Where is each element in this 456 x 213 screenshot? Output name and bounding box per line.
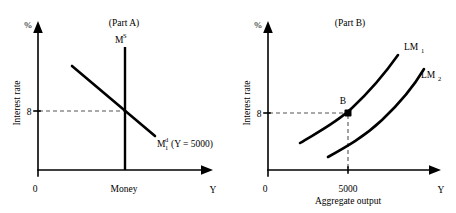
part-b-x-axis-label: Aggregate output <box>315 196 382 206</box>
part-b-y-tick-label: 8 <box>257 109 262 119</box>
part-b-y-unit: % <box>254 20 262 30</box>
part-b-y-axis-label: Interest rate <box>242 80 252 125</box>
part-b-y-axis-arrow-icon <box>263 21 273 33</box>
money-demand-curve <box>72 66 155 136</box>
money-supply-label: M S <box>115 32 127 45</box>
part-b-x-axis-arrow-icon <box>429 165 441 175</box>
part-a-y-axis-arrow-icon <box>33 21 43 33</box>
part-b-panel: (Part B) % Interest rate 8 0 5000 Aggreg… <box>242 18 445 206</box>
part-a-y-unit: % <box>24 20 32 30</box>
part-b-x-unit: Y <box>438 185 445 195</box>
money-demand-label-subscript: 1 <box>165 144 168 151</box>
part-b-title: (Part B) <box>335 18 365 29</box>
part-b-x-axis <box>268 165 441 175</box>
money-demand-label-suffix: (Y = 5000) <box>171 139 213 150</box>
money-supply-label-superscript: S <box>123 32 127 39</box>
lm1-label-subscript: 1 <box>421 47 424 54</box>
lm1-label-base: LM <box>404 42 419 52</box>
lm2-label-base: LM <box>421 70 436 80</box>
lm1-label: LM 1 <box>404 42 424 54</box>
part-a-origin-label: 0 <box>33 184 38 194</box>
part-a-y-tick-label: 8 <box>27 107 32 117</box>
lm2-label-subscript: 2 <box>438 75 441 82</box>
figure-canvas: (Part A) % Interest rate 8 0 Money Y M S… <box>0 0 456 213</box>
part-a-y-axis <box>33 21 43 176</box>
part-a-panel: (Part A) % Interest rate 8 0 Money Y M S… <box>12 18 217 195</box>
part-b-origin-label: 0 <box>263 184 268 194</box>
part-a-x-axis-label: Money <box>111 184 138 194</box>
money-demand-label: M 1 d (Y = 5000) <box>157 136 213 151</box>
economics-figure: (Part A) % Interest rate 8 0 Money Y M S… <box>0 0 456 213</box>
point-b-marker <box>345 110 352 117</box>
part-a-y-axis-label: Interest rate <box>12 80 22 125</box>
lm2-label: LM 2 <box>421 70 441 82</box>
part-a-x-unit: Y <box>210 185 217 195</box>
lm1-curve <box>300 55 398 143</box>
money-demand-label-superscript: d <box>165 136 169 143</box>
part-a-x-axis-arrow-icon <box>201 165 213 175</box>
part-a-title: (Part A) <box>109 18 139 29</box>
part-b-x-tick-label: 5000 <box>339 184 358 194</box>
part-b-y-axis <box>263 21 273 176</box>
point-b-label: B <box>340 96 346 106</box>
